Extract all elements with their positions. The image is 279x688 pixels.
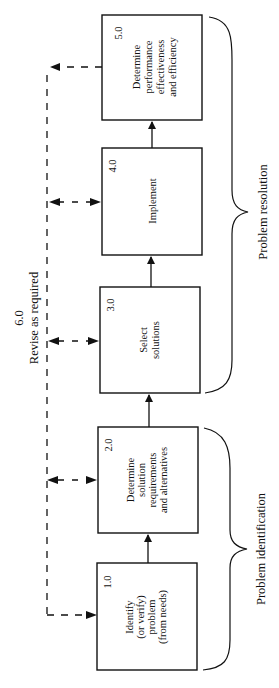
box-number: 2.0 (103, 438, 114, 451)
box-number: 1.0 (102, 575, 113, 588)
box-1-0: 1.0 Identify (or verify) problem (from n… (97, 563, 197, 670)
arrowhead-right-icon (88, 337, 99, 345)
svg-text:Determine: Determine (125, 458, 136, 503)
arrowhead-left-icon (48, 337, 59, 345)
arrowhead-right-icon (86, 611, 97, 619)
arrowhead-left-icon (50, 63, 60, 71)
svg-text:and efficiency: and efficiency (167, 36, 178, 96)
svg-text:Identify: Identify (124, 600, 135, 634)
box-number: 3.0 (105, 298, 116, 311)
box-4-0: 4.0 Implement (102, 148, 202, 255)
svg-text:solution: solution (136, 462, 147, 497)
arrowhead-left-icon (47, 476, 58, 484)
svg-text:Implement: Implement (147, 178, 158, 224)
svg-text:(from needs): (from needs) (157, 590, 169, 644)
svg-text:Select: Select (138, 327, 149, 353)
brace-problem-identification (203, 428, 247, 670)
svg-text:and alternatives: and alternatives (158, 447, 169, 513)
svg-text:solutions: solutions (150, 321, 161, 359)
box-number: 5.0 (113, 26, 124, 39)
feedback-number: 6.0 (12, 310, 26, 326)
svg-text:performance: performance (143, 40, 154, 93)
arrowhead-right-icon (86, 476, 97, 484)
arrowhead-left-icon (49, 198, 60, 206)
revise-label: 6.0 Revise as required (12, 271, 41, 364)
problem-solving-process-diagram: 5.0 Determine performance effectiveness … (0, 0, 279, 688)
feedback-label: Revise as required (27, 271, 41, 364)
box-3-0: 3.0 Select solutions (100, 287, 200, 393)
box-number: 4.0 (107, 159, 118, 172)
arrowhead-right-icon (90, 198, 101, 206)
svg-text:requirements: requirements (147, 453, 158, 508)
box-5-0: 5.0 Determine performance effectiveness … (102, 15, 202, 120)
group-label-problem-identification: Problem identification (254, 492, 268, 605)
svg-text:Determine: Determine (131, 45, 142, 90)
group-label-problem-resolution: Problem resolution (256, 164, 270, 260)
svg-text:problem: problem (146, 600, 157, 635)
svg-text:effectiveness: effectiveness (155, 40, 166, 95)
box-2-0: 2.0 Determine solution requirements and … (98, 427, 198, 533)
feedback-loop (47, 63, 102, 619)
brace-problem-resolution (205, 17, 248, 393)
